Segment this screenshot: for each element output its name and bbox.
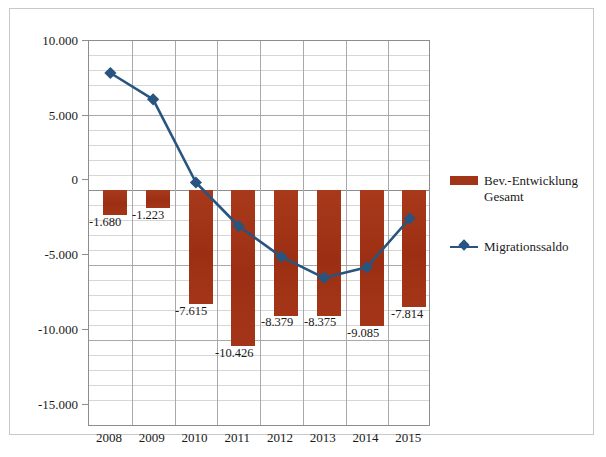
data-label-2008: -1.680: [89, 216, 121, 229]
migrationssaldo-line-series: [89, 41, 431, 427]
data-point-2008: [104, 67, 116, 79]
legend-label-line2: Gesamt: [484, 189, 524, 204]
plot-area: [88, 40, 430, 426]
chart-legend: Bev.-Entwicklung Gesamt Migrationssaldo: [450, 173, 590, 289]
x-axis-label-2009: 2009: [129, 431, 175, 444]
data-label-2015: -7.814: [391, 308, 423, 321]
data-label-2013: -8.375: [304, 316, 336, 329]
chart-frame: 10.000 5.000 0 -5.000 -10.000 -15.000: [9, 8, 594, 435]
x-axis-label-2015: 2015: [385, 431, 431, 444]
data-label-2014: -9.085: [347, 327, 379, 340]
data-label-2010: -7.615: [175, 305, 207, 318]
y-axis-label-2: 0: [16, 173, 78, 186]
x-axis-label-2010: 2010: [172, 431, 218, 444]
data-label-2012: -8.379: [261, 316, 293, 329]
data-label-2011: -10.426: [215, 347, 254, 360]
x-axis-label-2013: 2013: [300, 431, 346, 444]
legend-item-bev-entwicklung[interactable]: Bev.-Entwicklung Gesamt: [450, 173, 590, 205]
y-axis-label-3: -5.000: [16, 248, 78, 261]
legend-label-line1: Migrationssaldo: [484, 239, 569, 254]
x-axis-label-2008: 2008: [86, 431, 132, 444]
legend-item-migrationssaldo[interactable]: Migrationssaldo: [450, 239, 590, 255]
x-axis-label-2012: 2012: [257, 431, 303, 444]
data-label-2009: -1.223: [132, 209, 164, 222]
y-axis-label-0: 10.000: [16, 34, 78, 47]
y-axis-label-4: -10.000: [16, 323, 78, 336]
x-axis-label-2014: 2014: [343, 431, 389, 444]
x-axis-label-2011: 2011: [214, 431, 260, 444]
legend-label-line1: Bev.-Entwicklung: [484, 173, 578, 188]
data-point-2013: [318, 272, 330, 284]
bar-swatch-icon: [450, 176, 478, 185]
y-axis-label-5: -15.000: [16, 398, 78, 411]
data-point-2009: [147, 93, 159, 105]
y-axis-label-1: 5.000: [16, 109, 78, 122]
